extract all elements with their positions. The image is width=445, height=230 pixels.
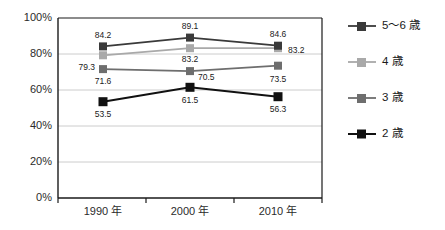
series-marker-5-6-sai-1990 <box>99 42 107 50</box>
legend-label-3-sai: 3 歳 <box>382 91 404 103</box>
line-chart-figure: 100% 80% 60% 40% 20% 0% 1990 年 2000 年 20… <box>0 0 445 230</box>
series-marker-3-sai-2000 <box>186 67 194 75</box>
x-tick-label-2000: 2000 年 <box>171 204 210 217</box>
value-label-4-sai-2010: 83.2 <box>288 45 305 55</box>
legend-label-2-sai: 2 歳 <box>382 127 404 139</box>
series-marker-2-sai-1990 <box>99 97 108 106</box>
series-marker-2-sai-2000 <box>186 83 195 92</box>
value-label-3-sai-1990: 71.6 <box>95 76 112 86</box>
series-marker-2-sai-2010 <box>274 92 283 101</box>
legend-item-3-sai[interactable]: 3 歳 <box>348 91 404 103</box>
y-tick-label-40: 40% <box>30 119 52 131</box>
value-label-5-6-sai-2000: 89.1 <box>182 21 199 31</box>
legend-item-2-sai[interactable]: 2 歳 <box>348 127 404 139</box>
y-tick-label-80: 80% <box>30 47 52 59</box>
value-label-5-6-sai-1990: 84.2 <box>95 30 112 40</box>
chart-legend: 5〜6 歳 4 歳 3 歳 2 歳 <box>348 19 421 139</box>
y-tick-label-100: 100% <box>24 11 52 23</box>
legend-marker-4-sai <box>357 58 366 67</box>
x-tick-label-1990: 1990 年 <box>84 204 123 217</box>
legend-marker-2-sai <box>357 130 366 139</box>
legend-marker-3-sai <box>357 94 366 103</box>
value-label-2-sai-2010: 56.3 <box>270 104 287 114</box>
value-label-4-sai-2000: 83.2 <box>182 54 199 64</box>
series-marker-3-sai-1990 <box>99 65 107 73</box>
value-label-2-sai-1990: 53.5 <box>95 109 112 119</box>
value-label-3-sai-2000: 70.5 <box>198 72 215 82</box>
legend-marker-5-6-sai <box>357 22 366 31</box>
legend-item-4-sai[interactable]: 4 歳 <box>348 55 404 67</box>
value-label-2-sai-2000: 61.5 <box>182 95 199 105</box>
y-tick-label-0: 0% <box>36 191 52 203</box>
y-axis-tick-labels: 100% 80% 60% 40% 20% 0% <box>24 11 52 203</box>
chart-canvas: 100% 80% 60% 40% 20% 0% 1990 年 2000 年 20… <box>0 0 445 230</box>
series-marker-4-sai-2000 <box>186 44 194 52</box>
series-marker-5-6-sai-2000 <box>186 34 194 42</box>
value-label-4-sai-1990: 79.3 <box>78 62 95 72</box>
legend-label-5-6-sai: 5〜6 歳 <box>382 19 421 31</box>
value-label-3-sai-2010: 73.5 <box>270 74 287 84</box>
series-marker-4-sai-1990 <box>99 51 107 59</box>
series-marker-5-6-sai-2010 <box>274 42 282 50</box>
x-tick-label-2010: 2010 年 <box>259 204 298 217</box>
legend-item-5-6-sai[interactable]: 5〜6 歳 <box>348 19 421 31</box>
legend-label-4-sai: 4 歳 <box>382 55 404 67</box>
y-tick-label-60: 60% <box>30 83 52 95</box>
series-marker-3-sai-2010 <box>274 62 282 70</box>
y-tick-label-20: 20% <box>30 155 52 167</box>
x-axis-tick-labels: 1990 年 2000 年 2010 年 <box>84 204 298 217</box>
value-label-5-6-sai-2010: 84.6 <box>270 29 287 39</box>
